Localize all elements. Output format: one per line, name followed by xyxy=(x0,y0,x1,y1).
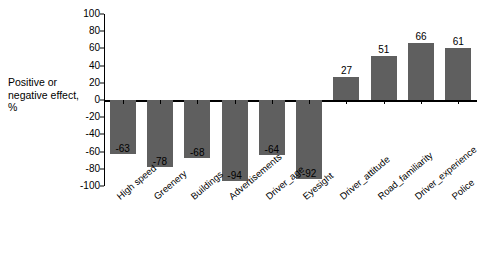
bar-slot: -68 xyxy=(179,14,216,186)
bar-value-label: 66 xyxy=(415,31,426,42)
x-tick-mark xyxy=(235,100,236,104)
x-tick-mark xyxy=(346,100,347,104)
x-tick-mark xyxy=(421,100,422,104)
y-tick-label: 20 xyxy=(89,78,100,88)
bar xyxy=(408,43,434,100)
x-tick-mark xyxy=(123,100,124,104)
bar xyxy=(222,100,248,181)
y-tick-label: -60 xyxy=(86,147,100,157)
y-tick-label: -100 xyxy=(80,181,100,191)
bar-value-label: 61 xyxy=(453,36,464,47)
y-tick-label: -20 xyxy=(86,112,100,122)
bar-value-label: 27 xyxy=(341,65,352,76)
bar-chart: Positive or negative effect, % 100 80 60… xyxy=(0,0,502,264)
bar-slot: -94 xyxy=(216,14,253,186)
y-axis-title: Positive or negative effect, % xyxy=(8,76,82,114)
bar-slot: -78 xyxy=(141,14,178,186)
bar-slot: -63 xyxy=(104,14,141,186)
y-tick-label: -80 xyxy=(86,164,100,174)
x-tick-mark xyxy=(458,100,459,104)
y-tick-label: -40 xyxy=(86,129,100,139)
x-tick-mark xyxy=(197,100,198,104)
bar-value-label: -68 xyxy=(190,147,204,158)
bar xyxy=(445,48,471,100)
bar xyxy=(333,77,359,100)
bar xyxy=(371,56,397,100)
x-tick-mark xyxy=(272,100,273,104)
x-tick-mark xyxy=(384,100,385,104)
x-tick-mark xyxy=(309,100,310,104)
y-tick-label: 40 xyxy=(89,61,100,71)
bar-value-label: -78 xyxy=(153,156,167,167)
bar-value-label: 51 xyxy=(378,44,389,55)
x-tick-mark xyxy=(160,100,161,104)
bar-slot: -92 xyxy=(291,14,328,186)
bar-value-label: -94 xyxy=(227,170,241,181)
bar-value-label: -63 xyxy=(115,143,129,154)
bar-slot: 27 xyxy=(328,14,365,186)
y-tick-label: 100 xyxy=(83,9,100,19)
y-tick-label: 80 xyxy=(89,26,100,36)
y-tick-label: 60 xyxy=(89,43,100,53)
